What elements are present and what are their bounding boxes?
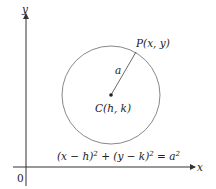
radius-label: a xyxy=(115,64,121,76)
y-axis-label: y xyxy=(21,3,29,15)
circle-diagram: y x 0 a C(h, k) P(x, y) (x − h)2 + (y − … xyxy=(0,0,216,189)
x-axis-label: x xyxy=(197,161,203,173)
origin-label: 0 xyxy=(17,172,24,184)
diagram-canvas: y x 0 a C(h, k) P(x, y) (x − h)2 + (y − … xyxy=(0,0,216,189)
circle-equation: (x − h)2 + (y − k)2 = a2 xyxy=(57,150,180,162)
point-label: P(x, y) xyxy=(135,37,170,49)
center-point xyxy=(109,93,113,97)
center-label: C(h, k) xyxy=(95,102,131,114)
